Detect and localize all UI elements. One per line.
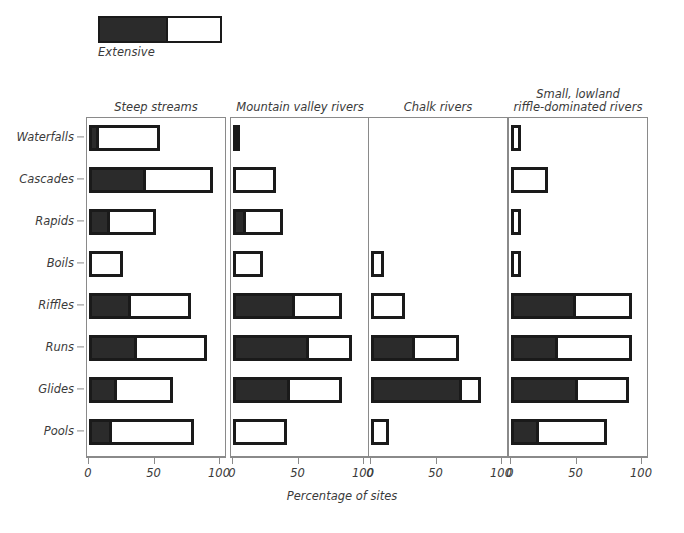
bar-segment-extensive <box>514 338 555 358</box>
bar-segment-extensive <box>514 380 575 400</box>
legend: Extensive <box>98 16 222 59</box>
x-axis-tick-label: 50 <box>568 466 583 480</box>
bar-boils <box>233 251 263 277</box>
x-axis-tick-label: 0 <box>506 466 513 480</box>
legend-swatch <box>98 16 222 43</box>
y-axis-tick <box>77 430 84 431</box>
bar-rapids <box>89 209 156 235</box>
bar-row <box>231 167 369 193</box>
x-axis-tick-label: 50 <box>428 466 443 480</box>
bar-segment-extensive <box>514 422 536 442</box>
y-axis-labels: WaterfallsCascadesRapidsBoilsRifflesRuns… <box>0 117 84 457</box>
bar-row <box>509 293 647 319</box>
bar-row <box>231 377 369 403</box>
y-axis-tick <box>77 346 84 347</box>
bar-waterfalls <box>89 125 160 151</box>
y-axis-tick <box>77 262 84 263</box>
legend-label-extensive: Extensive <box>98 45 222 59</box>
bar-glides <box>371 377 481 403</box>
panel-2: Mountain valley rivers <box>230 117 370 457</box>
x-axis-tick-label: 50 <box>290 466 305 480</box>
x-axis-2: 050100 <box>230 457 370 487</box>
bar-segment-open <box>236 128 239 148</box>
bar-segment-open <box>107 212 152 232</box>
bar-segment-open <box>292 296 339 316</box>
x-axis-tick <box>641 457 642 464</box>
bar-row <box>231 251 369 277</box>
y-axis-tick <box>77 304 84 305</box>
bar-row <box>87 167 225 193</box>
bar-row <box>231 125 369 151</box>
panel-title-1: Steep streams <box>114 101 197 118</box>
bar-glides <box>233 377 342 403</box>
bar-rapids <box>511 209 521 235</box>
bar-segment-open <box>236 254 260 274</box>
y-axis-label-pools: Pools <box>44 424 74 438</box>
bar-segment-extensive <box>514 296 573 316</box>
bar-segment-open <box>514 254 518 274</box>
bar-pools <box>371 419 389 445</box>
y-axis-label-boils: Boils <box>47 256 74 270</box>
bar-segment-open <box>114 380 170 400</box>
bar-segment-open <box>459 380 478 400</box>
chart-root: Extensive WaterfallsCascadesRapidsBoilsR… <box>0 0 684 533</box>
x-axis-line <box>230 457 370 458</box>
bar-segment-open <box>143 170 210 190</box>
x-axis-tick <box>298 457 299 464</box>
bar-boils <box>89 251 123 277</box>
bar-row <box>369 251 507 277</box>
bar-row <box>509 419 647 445</box>
bar-row <box>87 125 225 151</box>
bar-row <box>231 335 369 361</box>
bar-segment-open <box>236 170 273 190</box>
panel-title-4: Small, lowlandriffle-dominated rivers <box>514 88 643 118</box>
bar-row <box>369 377 507 403</box>
bar-row <box>231 419 369 445</box>
bar-row <box>369 335 507 361</box>
bar-riffles <box>511 293 632 319</box>
bar-segment-extensive <box>92 422 109 442</box>
bar-runs <box>89 335 207 361</box>
x-axis-3: 050100 <box>368 457 508 487</box>
bar-riffles <box>233 293 342 319</box>
panel-3: Chalk rivers <box>368 117 508 457</box>
x-axis-tick <box>576 457 577 464</box>
legend-swatch-open <box>166 18 220 41</box>
bar-runs <box>371 335 459 361</box>
panel-4: Small, lowlandriffle-dominated rivers <box>508 117 648 457</box>
bar-waterfalls <box>233 125 240 151</box>
bar-cascades <box>511 167 548 193</box>
bar-segment-open <box>412 338 456 358</box>
bar-glides <box>89 377 173 403</box>
bar-row <box>231 209 369 235</box>
bar-segment-extensive <box>374 338 412 358</box>
bar-segment-open <box>306 338 350 358</box>
bar-pools <box>511 419 607 445</box>
bar-row <box>87 293 225 319</box>
bar-segment-open <box>374 422 386 442</box>
x-axis-tick <box>510 457 511 464</box>
bar-row <box>509 251 647 277</box>
bar-riffles <box>371 293 405 319</box>
bar-cascades <box>233 167 276 193</box>
bar-row <box>509 167 647 193</box>
bar-segment-open <box>514 170 545 190</box>
bar-segment-open <box>514 128 518 148</box>
x-axis-tick <box>501 457 502 464</box>
x-axis-line <box>86 457 226 458</box>
bar-row <box>509 209 647 235</box>
bar-row <box>87 419 225 445</box>
x-axis-tick-label: 0 <box>366 466 373 480</box>
bar-segment-extensive <box>236 212 243 232</box>
bar-segment-open <box>374 296 402 316</box>
x-axis-tick-label: 100 <box>630 466 652 480</box>
plot-area-4 <box>509 118 647 456</box>
y-axis-tick <box>77 136 84 137</box>
bar-segment-open <box>287 380 339 400</box>
bar-segment-open <box>134 338 204 358</box>
bar-runs <box>511 335 632 361</box>
bar-segment-open <box>573 296 629 316</box>
bar-row <box>509 335 647 361</box>
bar-row <box>369 293 507 319</box>
y-axis-label-runs: Runs <box>45 340 74 354</box>
